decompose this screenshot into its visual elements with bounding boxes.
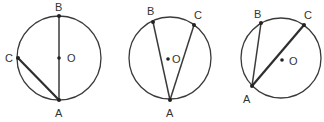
circle-chords-diagram: ABCOABCOABCO	[0, 0, 324, 122]
point-b-label: B	[254, 8, 261, 20]
figure-1: ABCO	[5, 1, 101, 119]
point-o-label: O	[172, 53, 181, 65]
point-a-label: A	[166, 107, 174, 119]
point-b-dot	[259, 21, 263, 25]
point-a-dot	[168, 98, 172, 102]
point-a-dot	[250, 84, 254, 88]
point-b-dot	[151, 20, 155, 24]
figure-3: ABCO	[241, 8, 321, 105]
point-a-label: A	[55, 107, 63, 119]
chord-ac	[18, 58, 59, 100]
point-o-label: O	[67, 52, 76, 64]
point-c-label: C	[5, 52, 13, 64]
point-c-dot	[16, 56, 20, 60]
point-c-label: C	[304, 9, 312, 21]
point-o-dot	[280, 58, 284, 62]
point-b-label: B	[55, 1, 62, 13]
point-c-label: C	[194, 9, 202, 21]
point-b-label: B	[147, 5, 154, 17]
point-c-dot	[302, 23, 306, 27]
point-c-dot	[192, 23, 196, 27]
point-a-label: A	[243, 93, 251, 105]
point-b-dot	[57, 14, 61, 18]
circle-outline	[129, 17, 211, 99]
figure-2: ABCO	[129, 5, 211, 119]
point-a-dot	[57, 98, 61, 102]
point-o-label: O	[289, 55, 298, 67]
chord-ab	[153, 22, 170, 100]
point-o-dot	[57, 56, 61, 60]
point-o-dot	[166, 57, 170, 61]
